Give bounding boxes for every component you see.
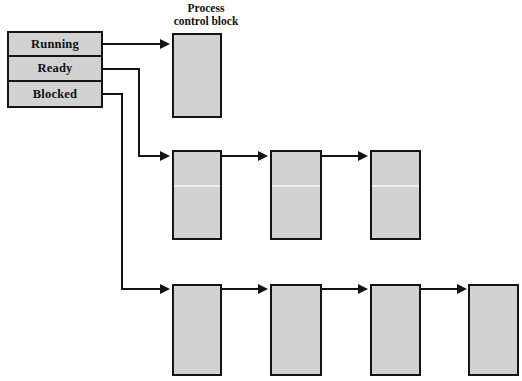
state-row-ready[interactable]: Ready bbox=[9, 57, 101, 81]
pcb-block-blocked-3[interactable] bbox=[370, 284, 421, 376]
connector-blocked-1-to-2 bbox=[222, 288, 260, 290]
arrowhead-ready-to-queue bbox=[160, 151, 170, 161]
state-label-running: Running bbox=[31, 38, 79, 51]
page-title-line-1: Process bbox=[151, 2, 261, 15]
connector-running-to-pcb bbox=[103, 43, 162, 45]
state-row-running[interactable]: Running bbox=[9, 33, 101, 57]
connector-ready-1-to-2 bbox=[222, 155, 260, 157]
state-label-blocked: Blocked bbox=[33, 88, 77, 101]
pcb-block-ready-1[interactable] bbox=[172, 150, 222, 240]
connector-ready-segment-v bbox=[138, 68, 140, 157]
page-title-line-2: control block bbox=[151, 15, 261, 28]
arrowhead-blocked-to-queue bbox=[160, 284, 170, 294]
connector-ready-segment-h2 bbox=[138, 155, 162, 157]
pcb-block-blocked-2[interactable] bbox=[270, 284, 322, 376]
process-state-table: Running Ready Blocked bbox=[7, 31, 103, 108]
arrowhead-blocked-3-to-4 bbox=[457, 284, 467, 294]
connector-blocked-2-to-3 bbox=[322, 288, 360, 290]
connector-blocked-3-to-4 bbox=[421, 288, 459, 290]
arrowhead-ready-1-to-2 bbox=[258, 151, 268, 161]
pcb-block-blocked-1[interactable] bbox=[172, 284, 222, 376]
arrowhead-ready-2-to-3 bbox=[358, 151, 368, 161]
connector-blocked-segment-h2 bbox=[121, 288, 162, 290]
process-control-block-diagram: Process control block Running Ready Bloc… bbox=[0, 0, 522, 381]
arrowhead-blocked-1-to-2 bbox=[258, 284, 268, 294]
pcb-block-ready-3[interactable] bbox=[370, 150, 421, 240]
state-row-blocked[interactable]: Blocked bbox=[9, 82, 101, 106]
connector-blocked-segment-v bbox=[121, 93, 123, 290]
pcb-block-ready-2[interactable] bbox=[270, 150, 322, 240]
arrowhead-blocked-2-to-3 bbox=[358, 284, 368, 294]
page-title: Process control block bbox=[151, 2, 261, 28]
connector-ready-segment-h1 bbox=[103, 68, 140, 70]
arrowhead-running-to-pcb bbox=[160, 39, 170, 49]
connector-ready-2-to-3 bbox=[322, 155, 360, 157]
pcb-block-blocked-4[interactable] bbox=[468, 284, 519, 376]
state-label-ready: Ready bbox=[37, 62, 72, 75]
pcb-block-running-1[interactable] bbox=[172, 33, 222, 118]
connector-blocked-segment-h1 bbox=[103, 93, 123, 95]
